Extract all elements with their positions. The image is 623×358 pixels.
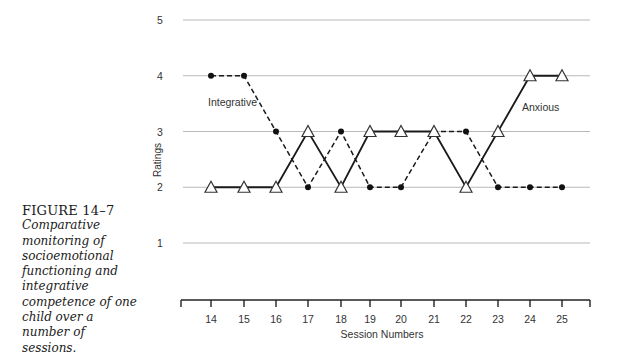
x-axis-label: Session Numbers xyxy=(341,328,424,340)
x-tick-17: 17 xyxy=(302,313,314,325)
annotation-anxious: Anxious xyxy=(522,101,559,113)
figure-description: Comparative monitoring of socioemotional… xyxy=(22,218,162,356)
x-tick-19: 19 xyxy=(364,313,376,325)
annotation-integrative: Integrative xyxy=(208,96,257,108)
x-tick-22: 22 xyxy=(460,313,472,325)
figure-label: FIGURE 14–7 xyxy=(22,203,162,218)
x-axis-tick-labels: 141516171819202122232425 xyxy=(205,313,568,325)
x-tick-18: 18 xyxy=(335,313,347,325)
x-tick-25: 25 xyxy=(556,313,568,325)
y-tick-2: 2 xyxy=(157,181,163,193)
y-axis-label: Ratings xyxy=(152,143,163,177)
x-tick-23: 23 xyxy=(492,313,504,325)
x-tick-15: 15 xyxy=(238,313,250,325)
y-tick-3: 3 xyxy=(157,126,163,138)
x-axis xyxy=(181,300,590,307)
x-tick-21: 21 xyxy=(428,313,440,325)
x-tick-20: 20 xyxy=(395,313,407,325)
x-tick-14: 14 xyxy=(205,313,217,325)
y-tick-5: 5 xyxy=(157,14,163,26)
figure-caption: FIGURE 14–7 Comparative monitoring of so… xyxy=(22,203,162,356)
y-tick-4: 4 xyxy=(157,70,163,82)
x-tick-24: 24 xyxy=(524,313,536,325)
x-tick-16: 16 xyxy=(270,313,282,325)
